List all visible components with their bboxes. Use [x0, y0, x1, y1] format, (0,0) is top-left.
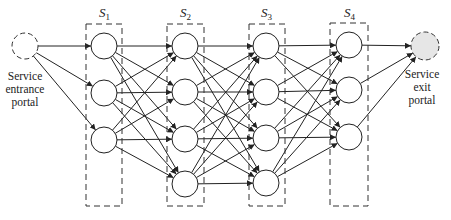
- service-node-s1-2: [91, 80, 117, 106]
- service-node-s3-1: [253, 33, 279, 59]
- service-node-s3-2: [253, 79, 279, 105]
- edges: [33, 45, 416, 184]
- service-node-s3-4: [253, 170, 279, 196]
- service-node-s2-3: [172, 126, 198, 152]
- stage-label-4: S4: [344, 5, 356, 22]
- service-node-s4-3: [336, 124, 362, 150]
- edge-arrow: [279, 137, 336, 138]
- edge-arrow: [362, 45, 411, 46]
- edge-arrow: [198, 183, 253, 184]
- service-node-s2-4: [172, 171, 198, 197]
- entrance-portal-node: [12, 33, 38, 59]
- exit-portal-node: [411, 32, 439, 60]
- edge-arrow: [273, 56, 343, 172]
- service-node-s2-2: [172, 79, 198, 105]
- labels: S1S2S3S4ServiceentranceportalServiceexit…: [6, 5, 440, 109]
- exit-portal-label: Serviceexitportal: [405, 68, 439, 107]
- edge-arrow: [111, 57, 179, 173]
- service-node-s4-1: [336, 32, 362, 58]
- entrance-portal-label: Serviceentranceportal: [6, 70, 45, 109]
- service-node-s1-1: [91, 33, 117, 59]
- service-composition-diagram: S1S2S3S4ServiceentranceportalServiceexit…: [0, 0, 451, 220]
- edge-arrow: [279, 45, 336, 46]
- stage-label-1: S1: [99, 5, 110, 22]
- stage-label-3: S3: [261, 5, 273, 22]
- service-node-s1-3: [91, 127, 117, 153]
- edge-arrow: [117, 139, 172, 140]
- service-node-s3-3: [253, 125, 279, 151]
- service-node-s4-2: [336, 77, 362, 103]
- service-node-s2-1: [172, 33, 198, 59]
- stage-label-2: S2: [180, 5, 191, 22]
